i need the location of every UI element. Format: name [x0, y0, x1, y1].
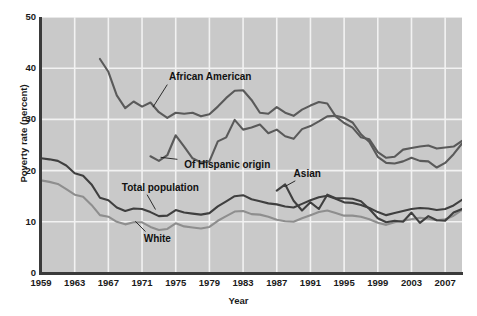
series-label-of-hispanic-origin: Of Hispanic origin	[184, 159, 270, 170]
x-tick-label: 2007	[425, 277, 465, 288]
poverty-rate-line-chart: 01020304050 1959196319671971197519791983…	[0, 0, 477, 316]
x-axis-title: Year	[0, 295, 477, 306]
series-label-white: White	[144, 233, 171, 244]
series-label-asian: Asian	[294, 168, 321, 179]
y-axis-spine	[39, 17, 42, 274]
annotation-leader-line	[286, 181, 295, 186]
y-axis-title-box: Poverty rate (percent)	[0, 0, 14, 316]
plot-area	[41, 17, 462, 273]
x-axis-spine	[39, 272, 463, 275]
annotation-leader-line	[147, 195, 155, 210]
y-axis-title: Poverty rate (percent)	[18, 64, 29, 204]
plot-svg	[41, 17, 462, 273]
series-label-total-population: Total population	[122, 182, 199, 193]
annotation-leader-line	[153, 85, 167, 108]
series-label-african-american: African American	[169, 71, 251, 82]
series-line-african-american	[100, 59, 462, 158]
